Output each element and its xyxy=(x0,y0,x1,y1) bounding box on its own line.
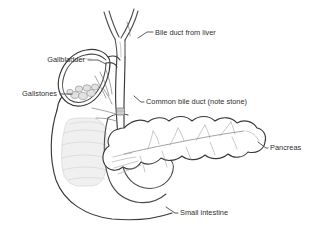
duct-stone xyxy=(117,108,125,115)
anatomy-figure: Bile duct from liver Gallbladder Gallsto… xyxy=(0,0,317,240)
label-text-gallbladder: Gallbladder xyxy=(47,55,85,64)
label-text-small-intestine: Small intestine xyxy=(180,208,228,217)
label-text-gallstones: Gallstones xyxy=(22,89,57,98)
label-common-bile-duct: Common bile duct (note stone) xyxy=(134,96,247,106)
anatomy-diagram-svg: Bile duct from liver Gallbladder Gallsto… xyxy=(0,0,317,240)
ghost-organ xyxy=(62,118,106,186)
label-text-bile-duct-from-liver: Bile duct from liver xyxy=(155,28,216,37)
label-text-pancreas: Pancreas xyxy=(270,143,302,152)
label-text-common-bile-duct: Common bile duct (note stone) xyxy=(146,97,247,106)
